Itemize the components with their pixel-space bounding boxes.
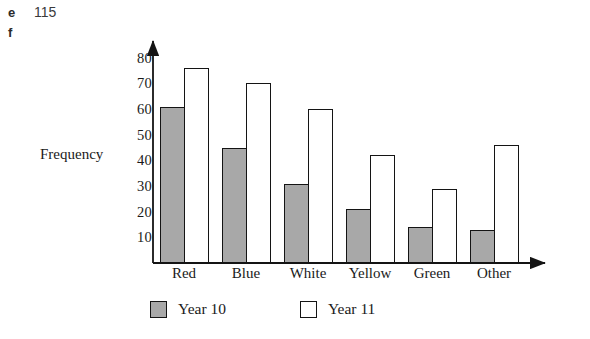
bar-blue-year-11 xyxy=(246,83,271,263)
bar-blue-year-10 xyxy=(222,148,247,263)
bar-white-year-10 xyxy=(284,184,309,264)
legend-swatch-icon xyxy=(300,301,317,318)
plot-area xyxy=(153,45,525,263)
legend-item-year11: Year 11 xyxy=(300,300,375,318)
bar-red-year-10 xyxy=(160,107,185,263)
bar-yellow-year-10 xyxy=(346,209,371,263)
y-axis-tick-label: 70 xyxy=(137,76,152,91)
x-axis-tick-label: Green xyxy=(401,265,463,287)
legend-swatch-icon xyxy=(150,301,167,318)
x-axis-tick-label: Red xyxy=(153,265,215,287)
y-axis-tick-label: 80 xyxy=(137,51,152,66)
bar-groups xyxy=(153,45,525,263)
y-axis-title: Frequency xyxy=(40,146,103,163)
bar-other-year-10 xyxy=(470,230,495,263)
bar-group xyxy=(153,45,215,263)
bar-red-year-11 xyxy=(184,68,209,263)
chart-legend: Year 10 Year 11 xyxy=(150,300,375,318)
bar-chart: Frequency 1020304050607080 RedBlueWhiteY… xyxy=(0,0,590,339)
bar-green-year-11 xyxy=(432,189,457,263)
bar-group xyxy=(277,45,339,263)
bar-group xyxy=(339,45,401,263)
bar-green-year-10 xyxy=(408,227,433,263)
x-axis-tick-labels: RedBlueWhiteYellowGreenOther xyxy=(153,265,525,287)
x-axis-tick-label: Yellow xyxy=(339,265,401,287)
y-axis-tick-labels: 1020304050607080 xyxy=(126,45,152,263)
legend-label: Year 11 xyxy=(328,300,375,318)
bar-white-year-11 xyxy=(308,109,333,263)
y-axis-tick-label: 50 xyxy=(137,128,152,143)
x-axis-tick-label: Other xyxy=(463,265,525,287)
y-axis-tick-label: 10 xyxy=(137,230,152,245)
x-axis-tick-label: White xyxy=(277,265,339,287)
y-axis-tick-label: 40 xyxy=(137,153,152,168)
y-axis-tick-label: 30 xyxy=(137,179,152,194)
legend-label: Year 10 xyxy=(178,300,226,318)
bar-group xyxy=(463,45,525,263)
y-axis-tick-label: 20 xyxy=(137,204,152,219)
bar-yellow-year-11 xyxy=(370,155,395,263)
y-axis-tick-label: 60 xyxy=(137,102,152,117)
bar-group xyxy=(215,45,277,263)
bar-other-year-11 xyxy=(494,145,519,263)
x-axis-tick-label: Blue xyxy=(215,265,277,287)
bar-group xyxy=(401,45,463,263)
legend-item-year10: Year 10 xyxy=(150,300,226,318)
